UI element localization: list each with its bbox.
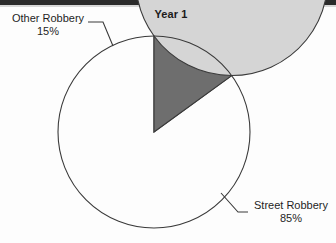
chart-page: Year 1 Other Robbery 15% Street Robbery …	[0, 0, 336, 243]
pie-label-street-robbery: Street Robbery 85%	[250, 199, 332, 224]
pie-label-street-robbery-percent: 85%	[250, 212, 332, 225]
pie-label-other-robbery: Other Robbery 15%	[8, 12, 88, 37]
chart-title: Year 1	[126, 8, 216, 20]
leader-line-other-robbery	[88, 22, 113, 46]
pie-label-other-robbery-name: Other Robbery	[8, 12, 88, 25]
pie-label-other-robbery-percent: 15%	[8, 25, 88, 38]
pie-label-street-robbery-name: Street Robbery	[250, 199, 332, 212]
pie-chart: Year 1 Other Robbery 15% Street Robbery …	[0, 0, 336, 243]
